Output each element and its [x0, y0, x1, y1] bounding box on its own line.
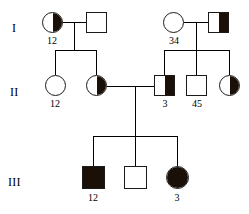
fill-half-right-i1	[53, 12, 64, 33]
generation-label-ii: II	[10, 86, 19, 98]
sib-drop-iii1	[93, 136, 94, 166]
descent-line-couple-ii	[135, 86, 136, 136]
fill-half-right-ii2	[97, 75, 108, 96]
sib-drop-ii1	[55, 50, 56, 75]
individual-iii3-circle	[166, 166, 189, 189]
fill-full-iii3	[166, 166, 189, 189]
descent-line-couple-i-left	[74, 22, 75, 50]
individual-ii4-number: 45	[192, 99, 202, 109]
individual-iii1-square	[82, 166, 105, 189]
individual-ii1-circle	[45, 75, 66, 96]
fill-half-right-ii3	[165, 75, 176, 96]
individual-i3-circle	[163, 12, 184, 33]
individual-i2-square	[86, 12, 107, 33]
sib-drop-ii5	[229, 50, 230, 75]
sibship-bar-i-left	[55, 50, 96, 51]
individual-i4-square	[208, 12, 229, 33]
sib-drop-iii2	[135, 136, 136, 166]
individual-ii3-number: 3	[163, 99, 168, 109]
individual-ii2-circle	[86, 75, 107, 96]
sib-drop-iii3	[177, 136, 178, 166]
individual-ii4-square	[186, 75, 207, 96]
fill-half-right-ii5	[230, 75, 241, 96]
individual-ii1-number: 12	[50, 99, 60, 109]
pedigree-chart: I II III 12 34 12 3 45	[0, 0, 249, 214]
descent-line-couple-i-right	[196, 22, 197, 50]
sib-drop-ii3	[164, 50, 165, 75]
fill-full-iii1	[82, 166, 105, 189]
individual-iii1-number: 12	[88, 193, 98, 203]
generation-label-iii: III	[8, 176, 21, 188]
individual-ii5-circle	[219, 75, 240, 96]
individual-i1-circle	[42, 12, 63, 33]
individual-iii2-square	[124, 166, 147, 189]
individual-ii3-square	[154, 75, 175, 96]
individual-iii3-number: 3	[175, 193, 180, 203]
generation-label-i: I	[12, 22, 16, 34]
sib-drop-ii2	[96, 50, 97, 75]
individual-i3-number: 34	[169, 36, 179, 46]
individual-i1-number: 12	[47, 36, 57, 46]
fill-half-right-i4	[219, 12, 230, 33]
sib-drop-ii4	[196, 50, 197, 75]
